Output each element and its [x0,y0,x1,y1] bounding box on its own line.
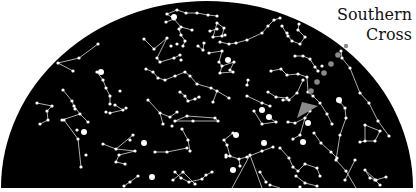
star [274,95,277,98]
star [220,34,223,37]
star [358,140,361,143]
star [186,99,189,102]
star [220,64,223,67]
star [264,180,267,183]
star [376,119,379,122]
star [303,116,306,119]
star [184,11,187,14]
star [318,101,321,104]
star [291,137,294,140]
star [303,181,306,184]
star [248,153,251,156]
star [124,106,127,109]
star [173,119,176,122]
star [122,184,125,187]
star [142,37,145,40]
star [46,118,49,121]
star [180,127,183,130]
star [117,153,120,156]
star [118,89,121,92]
star [315,166,318,169]
southern-cross-label: Southern Cross [337,6,412,44]
star [245,38,248,41]
star [146,98,149,101]
star [172,56,175,59]
star [190,28,193,31]
star [62,118,65,121]
bright-star [305,120,311,126]
star [114,160,117,163]
star [266,24,269,27]
star [191,119,194,122]
star [131,133,134,136]
star [238,164,241,167]
bright-star [266,114,272,120]
star [183,94,186,97]
bright-star [336,97,342,103]
label-line-1: Southern [337,6,412,24]
star [373,178,376,181]
star [173,74,176,77]
star [50,104,53,107]
star [188,74,191,77]
star [195,11,198,14]
star [35,101,38,104]
star [305,75,308,78]
bright-star [98,69,104,75]
star [301,54,304,57]
star [344,169,347,172]
star [353,158,356,161]
star [245,83,248,86]
star [296,72,299,75]
star [378,183,381,186]
star [266,90,269,93]
star [368,176,371,179]
star [363,168,366,171]
star [128,180,131,183]
star [202,41,205,44]
star [303,35,306,38]
star [316,69,319,72]
star [177,27,180,30]
star [136,174,139,177]
pointer-dot [321,70,327,76]
star [297,22,300,25]
star [218,40,221,43]
star [373,139,376,142]
star [234,41,237,44]
star [363,139,366,142]
star [296,28,299,31]
star [45,109,48,112]
star [268,183,271,186]
star [108,102,111,105]
star [173,170,176,173]
star [193,97,196,100]
star [84,153,87,156]
star [260,31,263,34]
star [252,109,255,112]
star [224,153,227,156]
bright-star [233,132,239,138]
star [108,111,111,114]
star [222,26,225,29]
star [291,165,294,168]
star [186,138,189,141]
star [232,60,235,63]
star [358,91,361,94]
star [165,12,168,15]
star [290,39,293,42]
star [195,82,198,85]
star [208,29,211,32]
pointer-dot [328,61,334,67]
star [269,69,272,72]
star [175,110,178,113]
star [163,78,166,81]
star [196,44,199,47]
label-line-2: Cross [337,26,412,44]
star [72,104,75,107]
star [227,96,230,99]
star [311,94,314,97]
star [193,182,196,185]
star [320,64,323,67]
bright-star [81,129,87,135]
